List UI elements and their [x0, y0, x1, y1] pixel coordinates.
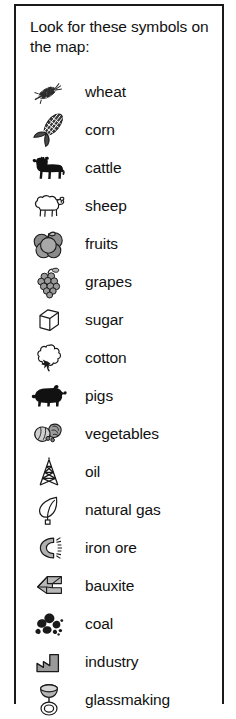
legend-item-sheep[interactable]: sheep: [16, 187, 222, 225]
legend-item-cattle[interactable]: cattle: [16, 149, 222, 187]
industry-icon: [22, 643, 76, 681]
legend-item-bauxite[interactable]: bauxite: [16, 567, 222, 605]
legend-item-vegetables[interactable]: vegetables: [16, 415, 222, 453]
legend-label: sheep: [85, 187, 127, 225]
coal-icon: [22, 605, 76, 643]
legend-item-cotton[interactable]: cotton: [16, 339, 222, 377]
legend-label: fruits: [85, 225, 118, 263]
legend-label: bauxite: [85, 567, 134, 605]
legend-label: corn: [85, 111, 115, 149]
legend-label: cattle: [85, 149, 121, 187]
map-legend-panel: Look for these symbols on the map:: [14, 4, 224, 704]
legend-item-pigs[interactable]: pigs: [16, 377, 222, 415]
legend-label: coal: [85, 605, 113, 643]
bauxite-icon: [22, 567, 76, 605]
legend-item-oil[interactable]: oil: [16, 453, 222, 491]
legend-item-wheat[interactable]: wheat: [16, 73, 222, 111]
glassmaking-icon: [22, 681, 76, 719]
legend-item-sugar[interactable]: sugar: [16, 301, 222, 339]
cotton-icon: [22, 339, 76, 377]
legend-label: industry: [85, 643, 138, 681]
legend-label: glassmaking: [85, 681, 170, 719]
legend-item-natural-gas[interactable]: natural gas: [16, 491, 222, 529]
legend-item-grapes[interactable]: grapes: [16, 263, 222, 301]
legend-label: iron ore: [85, 529, 137, 567]
legend-title: Look for these symbols on the map:: [30, 17, 216, 57]
legend-label: wheat: [85, 73, 126, 111]
legend-label: grapes: [85, 263, 132, 301]
legend-item-corn[interactable]: corn: [16, 111, 222, 149]
legend-item-glassmaking[interactable]: glassmaking: [16, 681, 222, 719]
corn-icon: [22, 111, 76, 149]
legend-item-coal[interactable]: coal: [16, 605, 222, 643]
legend-item-iron-ore[interactable]: iron ore: [16, 529, 222, 567]
sugar-icon: [22, 301, 76, 339]
pigs-icon: [22, 377, 76, 415]
natural-gas-icon: [22, 491, 76, 529]
wheat-icon: [22, 73, 76, 111]
legend-label: cotton: [85, 339, 127, 377]
legend-label: vegetables: [85, 415, 159, 453]
grapes-icon: [22, 263, 76, 301]
vegetables-icon: [22, 415, 76, 453]
sheep-icon: [22, 187, 76, 225]
legend-item-fruits[interactable]: fruits: [16, 225, 222, 263]
fruits-icon: [22, 225, 76, 263]
legend-label: natural gas: [85, 491, 161, 529]
oil-icon: [22, 453, 76, 491]
iron-ore-icon: [22, 529, 76, 567]
legend-label: pigs: [85, 377, 113, 415]
legend-item-industry[interactable]: industry: [16, 643, 222, 681]
legend-label: oil: [85, 453, 100, 491]
legend-label: sugar: [85, 301, 123, 339]
legend-item-list: wheat corn: [16, 73, 222, 719]
cattle-icon: [22, 149, 76, 187]
